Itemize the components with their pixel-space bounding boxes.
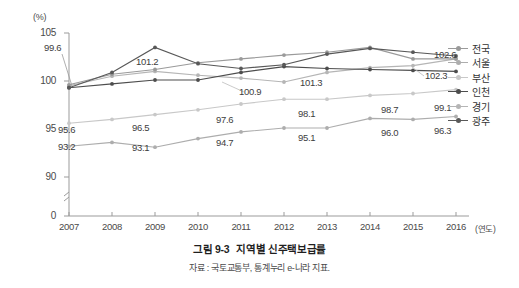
point-label-93-1: 93.1 <box>132 142 149 153</box>
axis-break-stroke-1 <box>64 192 69 196</box>
y-tick-95: 95 <box>32 123 56 134</box>
figure-container: (%) 10510095900 200720082009201020112012… <box>0 0 519 288</box>
legend-label: 서울 <box>472 55 489 70</box>
series-point-부산 <box>411 92 415 96</box>
series-point-경기 <box>325 71 329 75</box>
point-label-102-3: 102.3 <box>425 70 447 81</box>
series-point-광주 <box>282 63 286 67</box>
legend-marker-icon <box>448 58 468 68</box>
series-point-인천 <box>153 78 157 82</box>
series-point-광주 <box>368 47 372 51</box>
series-point-서울 <box>196 137 200 141</box>
caption-figure-number: 그림 9-3 <box>193 243 229 255</box>
series-point-경기 <box>282 80 286 84</box>
series-point-전국 <box>153 68 157 72</box>
series-인천 <box>67 65 458 90</box>
series-point-서울 <box>368 117 372 121</box>
x-tick-2015: 2015 <box>393 221 433 232</box>
point-label-97-6: 97.6 <box>216 114 233 125</box>
caption-source: 자료 : 국토교통부, 통계누리 e-나라 지표. <box>0 261 519 274</box>
series-point-인천 <box>325 67 329 71</box>
series-point-광주 <box>411 50 415 54</box>
legend-marker-icon <box>448 72 468 82</box>
series-point-경기 <box>196 73 200 77</box>
series-point-서울 <box>282 126 286 130</box>
series-point-인천 <box>110 82 114 86</box>
point-label-98-1: 98.1 <box>298 108 315 119</box>
series-point-광주 <box>239 67 243 71</box>
series-line-광주 <box>69 47 456 87</box>
legend-item-전국[interactable]: 전국 <box>448 41 514 56</box>
y-tick-105: 105 <box>32 27 56 38</box>
x-tick-2014: 2014 <box>350 221 390 232</box>
legend-item-경기[interactable]: 경기 <box>448 99 514 114</box>
figure-caption: 그림 9-3지역별 신주택보급률 자료 : 국토교통부, 통계누리 e-나라 지… <box>0 241 519 274</box>
legend-label: 인천 <box>472 84 489 99</box>
point-label-98-7: 98.7 <box>381 104 398 115</box>
point-label-96-5: 96.5 <box>132 122 149 133</box>
point-label-95-6: 95.6 <box>58 124 75 135</box>
series-point-경기 <box>411 64 415 68</box>
point-label-94-7: 94.7 <box>216 137 233 148</box>
legend-item-서울[interactable]: 서울 <box>448 56 514 71</box>
series-point-광주 <box>153 46 157 50</box>
series-point-전국 <box>411 57 415 61</box>
point-label-93-2: 93.2 <box>58 141 75 152</box>
series-point-인천 <box>368 68 372 72</box>
x-tick-2011: 2011 <box>221 221 261 232</box>
legend-marker-icon <box>448 101 468 111</box>
series-point-서울 <box>325 126 329 130</box>
x-tick-2013: 2013 <box>307 221 347 232</box>
y-tick-90: 90 <box>32 171 56 182</box>
legend-dot-swatch <box>456 89 461 94</box>
legend-marker-icon <box>448 116 468 126</box>
y-tick-100: 100 <box>32 75 56 86</box>
series-point-서울 <box>411 118 415 122</box>
legend-item-광주[interactable]: 광주 <box>448 114 514 129</box>
series-point-인천 <box>239 71 243 75</box>
x-tick-2016: 2016 <box>436 221 476 232</box>
point-label-101-3: 101.3 <box>300 77 322 88</box>
x-tick-2009: 2009 <box>135 221 175 232</box>
series-서울 <box>67 115 458 150</box>
axis-break-stroke-2 <box>64 197 69 201</box>
series-point-서울 <box>239 130 243 134</box>
legend-item-부산[interactable]: 부산 <box>448 70 514 85</box>
x-tick-2012: 2012 <box>264 221 304 232</box>
series-point-부산 <box>239 102 243 106</box>
x-tick-2007: 2007 <box>49 221 89 232</box>
point-label-101-2: 101.2 <box>136 56 158 67</box>
series-point-서울 <box>153 145 157 149</box>
chart-legend: 전국서울부산인천경기광주 <box>448 41 514 128</box>
legend-marker-icon <box>448 87 468 97</box>
point-label-96-0: 96.0 <box>381 127 398 138</box>
caption-title-line: 그림 9-3지역별 신주택보급률 <box>0 241 519 256</box>
series-point-광주 <box>196 62 200 66</box>
series-point-서울 <box>110 141 114 145</box>
point-label-100-9: 100.9 <box>239 86 261 97</box>
point-label-99-6: 99.6 <box>44 42 61 53</box>
series-point-광주 <box>110 71 114 75</box>
legend-dot-swatch <box>456 60 461 65</box>
y-tick-0: 0 <box>32 210 56 221</box>
series-point-부산 <box>153 113 157 117</box>
series-point-인천 <box>196 78 200 82</box>
legend-dot-swatch <box>456 75 461 80</box>
caption-title-text: 지역별 신주택보급률 <box>236 243 326 255</box>
legend-label: 경기 <box>472 99 489 114</box>
series-point-광주 <box>325 52 329 56</box>
series-line-인천 <box>69 67 456 88</box>
x-axis-unit-label: (연도) <box>475 222 495 234</box>
series-point-부산 <box>110 118 114 122</box>
series-point-전국 <box>239 57 243 61</box>
series-point-부산 <box>282 97 286 101</box>
series-point-광주 <box>67 86 71 90</box>
series-point-전국 <box>282 53 286 57</box>
point-label-95-1: 95.1 <box>298 132 315 143</box>
legend-label: 광주 <box>472 113 489 128</box>
legend-marker-icon <box>448 43 468 53</box>
legend-item-인천[interactable]: 인천 <box>448 85 514 100</box>
legend-label: 전국 <box>472 41 489 56</box>
x-tick-2010: 2010 <box>178 221 218 232</box>
x-tick-2008: 2008 <box>92 221 132 232</box>
